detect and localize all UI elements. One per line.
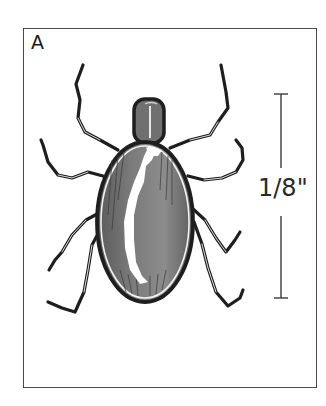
scale-bar-label: 1/8" xyxy=(258,176,304,200)
tick-illustration xyxy=(0,0,326,406)
leg-right-1 xyxy=(170,65,228,148)
leg-left-1 xyxy=(76,65,118,150)
leg-left-4 xyxy=(48,230,100,312)
leg-right-2 xyxy=(188,140,243,180)
leg-left-3 xyxy=(49,213,99,270)
tick-head xyxy=(134,99,164,143)
leg-right-4 xyxy=(194,222,243,306)
leg-right-3 xyxy=(192,208,240,252)
tick-body xyxy=(97,142,193,302)
leg-left-2 xyxy=(41,140,103,178)
